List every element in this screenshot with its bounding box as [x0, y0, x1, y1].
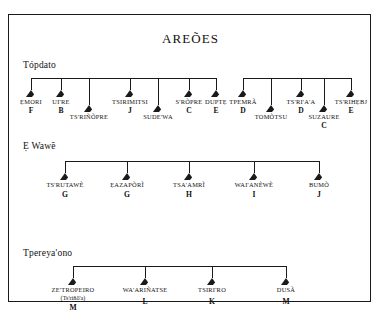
person-code: I — [253, 190, 256, 199]
descent-stem — [351, 78, 352, 90]
person-name: TSA'AMRĨ — [173, 181, 205, 188]
descent-stem — [127, 161, 128, 173]
descent-stem — [324, 78, 325, 105]
descent-stem — [271, 78, 272, 105]
person-code: L — [142, 297, 147, 306]
descent-stem — [212, 266, 213, 278]
person-alt-name: (Ts'riñõ'a) — [61, 294, 86, 301]
person-code: D — [298, 106, 303, 115]
descent-stem — [31, 78, 32, 90]
descent-stem — [216, 78, 217, 90]
person-code: M — [69, 303, 76, 312]
male-triangle-icon — [122, 173, 132, 180]
male-triangle-icon — [125, 90, 135, 97]
male-triangle-icon — [60, 173, 70, 180]
person-code: G — [124, 190, 130, 199]
descent-stem — [254, 161, 255, 173]
sibling-bracket — [243, 78, 351, 79]
male-triangle-icon — [211, 90, 221, 97]
person-name: ẸMORI — [20, 98, 42, 105]
descent-stem — [158, 78, 159, 105]
male-triangle-icon — [68, 278, 78, 285]
descent-stem — [243, 78, 244, 90]
person-name: SUZAURE — [308, 113, 339, 120]
male-triangle-icon — [140, 278, 150, 285]
person-code: B — [58, 106, 63, 115]
male-triangle-icon — [184, 90, 194, 97]
male-triangle-icon — [319, 105, 329, 112]
descent-stem — [61, 78, 62, 90]
descent-stem — [286, 266, 287, 278]
descent-stem — [89, 78, 90, 105]
person-code: C — [321, 121, 326, 130]
male-triangle-icon — [281, 278, 291, 285]
descent-stem — [65, 161, 66, 173]
person-name: DUSÃ — [277, 286, 295, 293]
descent-stem — [189, 161, 190, 173]
person-name: TS'RI'A'A — [287, 98, 316, 105]
male-triangle-icon — [207, 278, 217, 285]
male-triangle-icon — [238, 90, 248, 97]
person-code: J — [128, 106, 132, 115]
person-code: H — [186, 190, 192, 199]
person-name: S'RÕPRE — [175, 98, 202, 105]
male-triangle-icon — [56, 90, 66, 97]
person-name: ẸAZAPÕRĨ — [110, 181, 144, 188]
descent-stem — [189, 78, 190, 90]
descent-stem — [319, 161, 320, 173]
person-name: BUMÕ — [309, 181, 329, 188]
male-triangle-icon — [84, 105, 94, 112]
male-triangle-icon — [153, 105, 163, 112]
person-code: C — [186, 106, 191, 115]
descent-stem — [145, 266, 146, 278]
person-code: D — [240, 106, 245, 115]
person-name: TSIRIMITSI — [112, 98, 148, 105]
person-name: UI'RE — [52, 98, 69, 105]
person-code: M — [282, 297, 289, 306]
person-name: TS'RIÑÕPRE — [70, 113, 108, 120]
person-code: E — [213, 106, 218, 115]
person-name: TS'RUTAWẼ — [46, 181, 83, 188]
person-code: K — [209, 297, 215, 306]
person-name: ZE'TROPEIRO — [52, 286, 95, 293]
section-label-topdato: Tópdato — [23, 60, 56, 70]
person-name: WA'ARIÑATSE — [123, 286, 168, 293]
person-name: WAI'ANẼWẼ — [235, 181, 274, 188]
descent-stem — [73, 266, 74, 278]
person-name: SUDE'WA — [143, 113, 173, 120]
page-title: AREÕES — [9, 31, 372, 47]
person-name: TS'RIHẸBJ — [335, 98, 368, 105]
person-code: G — [62, 190, 68, 199]
male-triangle-icon — [296, 90, 306, 97]
sibling-bracket — [65, 161, 319, 162]
descent-stem — [301, 78, 302, 90]
male-triangle-icon — [249, 173, 259, 180]
person-name: TOMÕTSU — [255, 113, 288, 120]
person-code: F — [29, 106, 34, 115]
person-name: DUPTẸ — [205, 98, 227, 105]
person-name: TSIRI'RO — [198, 286, 226, 293]
section-label-e-wawe: Ẹ Wawẽ — [23, 141, 56, 151]
male-triangle-icon — [314, 173, 324, 180]
male-triangle-icon — [184, 173, 194, 180]
descent-stem — [130, 78, 131, 90]
section-label-tpereyaono: Tpereya'ono — [23, 248, 72, 258]
sibling-bracket — [73, 266, 286, 267]
male-triangle-icon — [346, 90, 356, 97]
chart-frame: AREÕES Tópdato ẸMORI F UI'RE B TS'RIÑÕPR… — [8, 14, 371, 302]
male-triangle-icon — [266, 105, 276, 112]
person-code: J — [317, 190, 321, 199]
person-code: E — [348, 106, 353, 115]
male-triangle-icon — [26, 90, 36, 97]
person-name: TPEMRÃ — [229, 98, 256, 105]
